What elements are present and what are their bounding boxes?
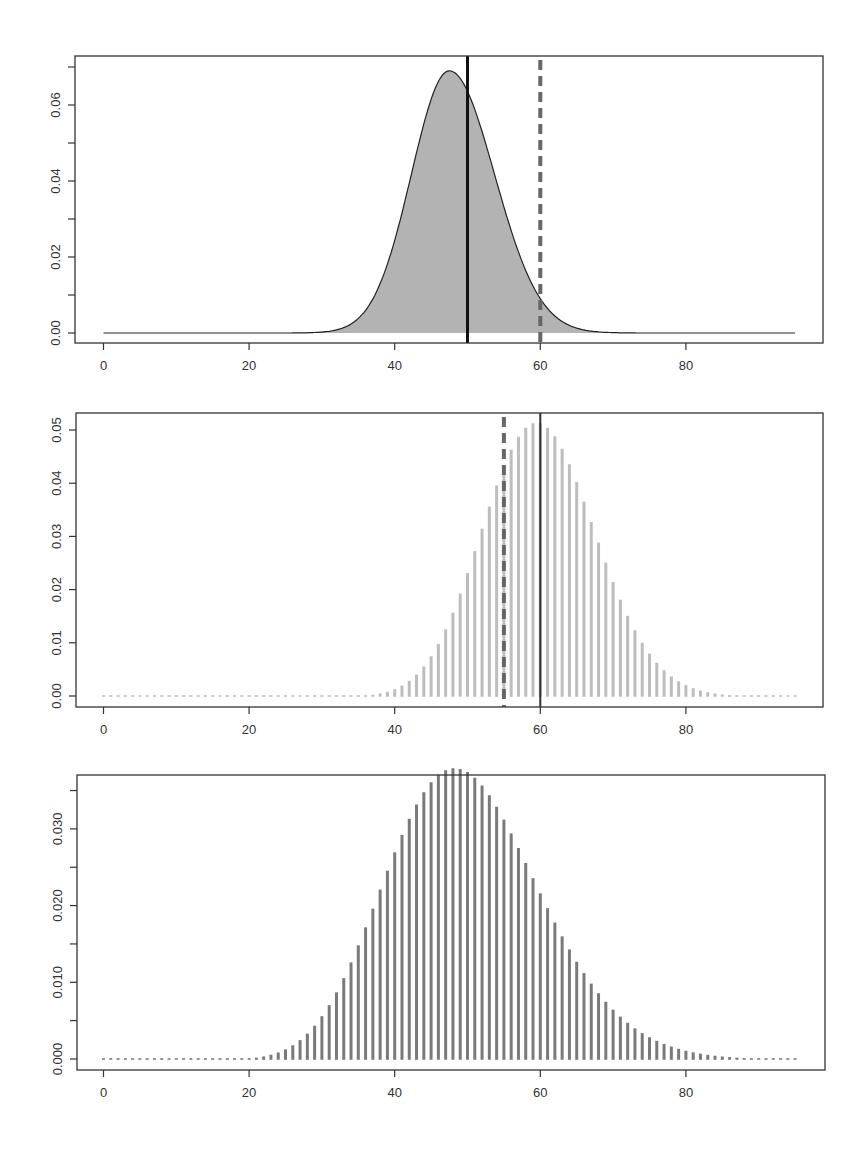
x-tick-label: 40 — [387, 1085, 401, 1100]
x-tick-label: 80 — [679, 1085, 693, 1100]
density-area — [104, 71, 796, 333]
x-tick-label: 0 — [100, 1085, 107, 1100]
y-tick-label: 0.06 — [48, 92, 63, 117]
chart-panel-3: 0.0000.0100.0200.030020406080 — [50, 768, 825, 1100]
y-tick-label: 0.000 — [50, 1043, 65, 1076]
y-tick-label: 0.04 — [49, 471, 64, 496]
x-tick-label: 40 — [387, 722, 401, 737]
x-tick-label: 20 — [242, 722, 256, 737]
y-tick-label: 0.020 — [50, 889, 65, 922]
y-tick-label: 0.04 — [48, 168, 63, 193]
y-tick-label: 0.010 — [50, 966, 65, 999]
y-tick-label: 0.03 — [49, 524, 64, 549]
x-tick-label: 80 — [679, 722, 693, 737]
y-tick-label: 0.00 — [48, 320, 63, 345]
x-tick-label: 20 — [242, 358, 256, 373]
plot-frame — [76, 413, 823, 707]
x-tick-label: 0 — [100, 722, 107, 737]
spike-series — [104, 768, 796, 1060]
y-tick-label: 0.02 — [48, 244, 63, 269]
x-tick-label: 0 — [100, 358, 107, 373]
x-tick-label: 40 — [387, 358, 401, 373]
y-tick-label: 0.01 — [49, 630, 64, 655]
y-tick-label: 0.00 — [49, 683, 64, 708]
x-tick-label: 60 — [533, 1085, 547, 1100]
y-tick-label: 0.030 — [50, 813, 65, 846]
y-tick-label: 0.05 — [49, 417, 64, 442]
chart-panel-2: 0.000.010.020.030.040.05020406080 — [49, 413, 823, 737]
chart-panel-1: 0.000.020.040.06020406080 — [48, 56, 823, 373]
x-tick-label: 20 — [242, 1085, 256, 1100]
x-tick-label: 60 — [533, 358, 547, 373]
plot-frame — [77, 775, 825, 1070]
x-tick-label: 80 — [679, 358, 693, 373]
x-tick-label: 60 — [533, 722, 547, 737]
spike-series — [104, 423, 796, 697]
figure: 0.000.020.040.060204060800.000.010.020.0… — [0, 0, 868, 1159]
y-tick-label: 0.02 — [49, 577, 64, 602]
density-fill — [104, 71, 796, 333]
